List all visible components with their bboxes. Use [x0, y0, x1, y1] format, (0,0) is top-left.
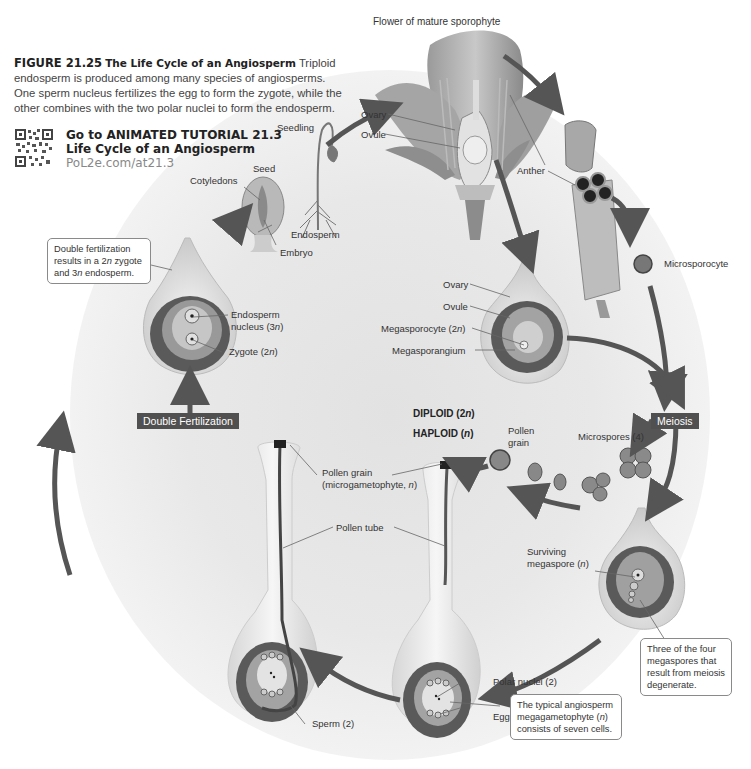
label-egg: Egg: [493, 711, 510, 722]
tutorial-subtitle: Life Cycle of an Angiosperm: [66, 142, 326, 156]
megasporocyte-ovule-illustration: [481, 262, 569, 383]
label-ovary: Ovary: [443, 279, 468, 290]
callout-megaspores: Three of the four megaspores that result…: [640, 638, 732, 696]
label-pollen-grain-micro-1: Pollen grain: [322, 467, 372, 478]
label-pollen-tube: Pollen tube: [336, 522, 384, 533]
figure-caption: FIGURE 21.25 The Life Cycle of an Angios…: [14, 56, 349, 116]
pollen-tube-ovule-left: [228, 440, 317, 722]
label-sperm: Sperm (2): [312, 718, 354, 729]
label-megasporocyte: Megasporocyte (2n): [381, 323, 466, 334]
label-endosperm: Endosperm: [291, 229, 340, 240]
label-seedling: Seedling: [277, 122, 314, 133]
label-pollen-grain-micro-2: (microgametophyte, n): [322, 479, 417, 490]
tutorial-url-link[interactable]: PoL2e.com/at21.3: [66, 156, 326, 170]
label-microsporocyte: Microsporocyte: [664, 258, 728, 269]
label-ovule: Ovule: [443, 301, 468, 312]
anther-illustration: [565, 121, 620, 318]
figure-number: FIGURE 21.25: [14, 56, 102, 70]
label-polar-nuclei: Polar nuclei (2): [493, 676, 557, 687]
label-embryo: Embryo: [280, 247, 313, 258]
label-flower-title: Flower of mature sporophyte: [373, 16, 500, 27]
seed-illustration: [242, 177, 284, 252]
label-flower-ovule: Ovule: [361, 129, 386, 140]
microsporocyte-cell: [634, 255, 652, 273]
figure-title: The Life Cycle of an Angiosperm: [105, 57, 296, 69]
label-zygote: Zygote (2n): [229, 346, 278, 357]
qr-code-icon[interactable]: [14, 128, 54, 168]
flower-illustration: [375, 31, 560, 240]
fertilized-ovule-illustration: [143, 238, 236, 375]
megaspore-ovule-illustration: [599, 508, 685, 629]
legend-haploid: HAPLOID (n): [413, 428, 474, 439]
label-pollen-grain-1: Pollen: [508, 425, 534, 436]
legend-diploid: DIPLOID (2n): [413, 408, 475, 419]
pollen-tube-ovule-middle: [392, 461, 480, 738]
label-cotyledons: Cotyledons: [190, 175, 238, 186]
label-pollen-grain-2: grain: [508, 437, 529, 448]
label-anther: Anther: [517, 165, 545, 176]
callout-megagametophyte: The typical angiosperm megagametophyte (…: [510, 694, 622, 740]
microspores-illustration: [490, 448, 651, 501]
label-surviving-megaspore-1: Surviving: [527, 546, 566, 557]
label-seed: Seed: [253, 163, 275, 174]
label-microspores: Microspores (4): [578, 431, 644, 442]
label-megasporangium: Megasporangium: [392, 345, 465, 356]
stage-double-fertilization: Double Fertilization: [137, 413, 239, 429]
label-endosperm-nucleus-2: nucleus (3n): [231, 321, 283, 332]
label-endosperm-nucleus-1: Endosperm: [231, 309, 280, 320]
stage-meiosis: Meiosis: [651, 413, 699, 429]
label-flower-ovary: Ovary: [361, 109, 386, 120]
label-surviving-megaspore-2: megaspore (n): [527, 558, 589, 569]
callout-double-fertilization: Double fertilization results in a 2n zyg…: [47, 238, 151, 284]
